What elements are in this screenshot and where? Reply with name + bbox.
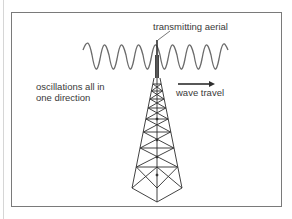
oscillations-label: oscillations all in one direction <box>36 81 105 103</box>
wave-travel-label: wave travel <box>176 87 224 98</box>
aerial-label: transmitting aerial <box>153 21 228 32</box>
transmission-tower <box>132 40 182 202</box>
aerial-leader-line <box>158 31 170 40</box>
oscillations-label-line2: one direction <box>36 92 105 103</box>
oscillations-label-line1: oscillations all in <box>36 81 105 92</box>
diagram-canvas <box>0 0 292 219</box>
